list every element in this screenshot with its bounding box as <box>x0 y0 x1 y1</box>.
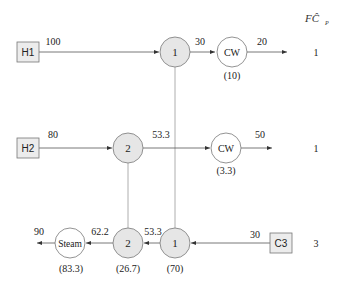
h1-inlet-temp: 100 <box>46 36 61 47</box>
fcp-header-label: FĈ <box>304 12 320 24</box>
fcp-column-header: FĈ P <box>304 12 329 26</box>
c3-fcp-value: 3 <box>314 238 319 249</box>
c3-mid-temp: 53.3 <box>144 226 162 237</box>
heat-exchanger-network-diagram: FĈ P H1 100 1 30 CW (10) 20 1 H2 80 2 53… <box>0 0 338 292</box>
cw-h2-duty: (3.3) <box>216 165 235 177</box>
cw-h1-label: CW <box>224 47 241 58</box>
exchanger-2-duty: (26.7) <box>116 263 140 275</box>
h1-outlet-temp: 20 <box>257 36 267 47</box>
exchanger-1-label-bottom: 1 <box>172 237 178 249</box>
exchanger-1-label-top: 1 <box>172 46 178 58</box>
h2-inlet-temp: 80 <box>48 129 58 140</box>
steam-duty: (83.3) <box>59 263 83 275</box>
stream-h2: H2 80 2 53.3 CW (3.3) 50 1 <box>17 129 319 177</box>
cw-h1-duty: (10) <box>224 70 241 82</box>
c3-after-exchanger-temp: 62.2 <box>91 226 109 237</box>
c3-label: C3 <box>275 238 288 249</box>
c3-inlet-temp: 30 <box>250 229 260 240</box>
h2-mid-temp: 53.3 <box>152 129 170 140</box>
h1-label: H1 <box>22 47 35 58</box>
h2-label: H2 <box>22 143 35 154</box>
h2-outlet-temp: 50 <box>255 129 265 140</box>
exchanger-2-label-top: 2 <box>125 142 131 154</box>
stream-h1: H1 100 1 30 CW (10) 20 1 <box>17 36 319 82</box>
h1-fcp-value: 1 <box>314 47 319 58</box>
fcp-header-subscript: P <box>324 20 329 26</box>
c3-outlet-temp: 90 <box>34 226 44 237</box>
stream-c3: C3 30 1 (70) 53.3 2 (26.7) 62.2 Steam (8… <box>34 226 319 275</box>
h1-mid-temp: 30 <box>195 36 205 47</box>
exchanger-2-label-bottom: 2 <box>125 237 131 249</box>
steam-label: Steam <box>58 239 82 249</box>
exchanger-1-duty: (70) <box>167 263 184 275</box>
cw-h2-label: CW <box>218 143 235 154</box>
h2-fcp-value: 1 <box>314 143 319 154</box>
